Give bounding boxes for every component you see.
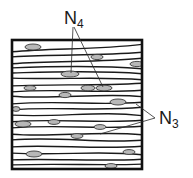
nucleus [61, 71, 79, 77]
nucleus [123, 150, 135, 155]
nucleus [15, 121, 31, 127]
nucleus [71, 134, 83, 139]
nucleus [48, 120, 60, 125]
nucleus [25, 44, 41, 50]
nucleus [91, 54, 103, 59]
nucleus [105, 164, 117, 169]
nucleus [110, 99, 126, 105]
nucleus [96, 85, 112, 91]
nucleus [24, 86, 36, 91]
tissue-diagram: N4 N3 [0, 0, 193, 178]
nucleus [94, 125, 106, 130]
nucleus [26, 151, 42, 157]
nucleus [59, 92, 71, 97]
label-n3: N3 [159, 108, 179, 131]
label-n4: N4 [64, 8, 84, 31]
fiber-lines [10, 44, 145, 165]
nucleus [81, 85, 95, 91]
